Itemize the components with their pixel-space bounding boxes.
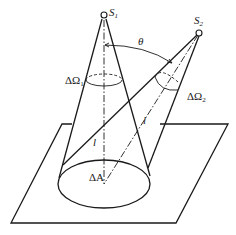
solid-angle2-ellipse-back: [155, 73, 178, 82]
label-distance1: l: [93, 136, 96, 148]
solid-angle2-ellipse-front: [155, 77, 178, 90]
cone2-left-edge: [63, 35, 197, 165]
plane-outline: [11, 124, 228, 223]
label-theta: θ: [138, 35, 144, 47]
label-solid-angle1: ΔΩ1: [65, 74, 84, 88]
label-solid-angle2: ΔΩ2: [187, 90, 206, 104]
label-s1: S1: [109, 6, 118, 20]
source1-point: [101, 12, 107, 18]
label-s2: S2: [194, 14, 204, 28]
label-area: ΔA: [89, 171, 104, 183]
theta-arc: [105, 45, 172, 63]
cone1-left-edge: [59, 19, 102, 178]
source2-point: [196, 30, 202, 36]
label-distance2: l: [143, 114, 146, 126]
solid-angle-diagram: S1 S2 θ ΔΩ1 ΔΩ2 l l ΔA: [0, 0, 236, 235]
